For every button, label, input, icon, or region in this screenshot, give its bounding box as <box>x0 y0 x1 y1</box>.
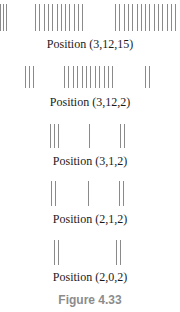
stick-icon <box>69 4 70 31</box>
stick-icon <box>82 66 83 88</box>
stick-icon <box>175 4 176 31</box>
stick-icon <box>115 4 116 31</box>
stick-icon <box>149 66 150 88</box>
stick-icon <box>171 4 172 31</box>
stick-icon <box>55 181 56 206</box>
stick-heaps <box>0 4 180 31</box>
stick-icon <box>145 4 146 31</box>
stick-icon <box>141 4 142 31</box>
stick-icon <box>25 66 26 88</box>
stick-icon <box>44 4 45 31</box>
stick-icon <box>48 4 49 31</box>
stick-icon <box>90 66 91 88</box>
stick-icon <box>137 4 138 31</box>
stick-icon <box>33 66 34 88</box>
stick-icon <box>29 66 30 88</box>
position-label: Position (3,1,2) <box>0 154 180 169</box>
stick-icon <box>54 240 55 265</box>
stick-icon <box>86 66 87 88</box>
position-label: Position (2,0,2) <box>0 270 180 285</box>
stick-icon <box>119 4 120 31</box>
stick-icon <box>132 4 133 31</box>
stick-icon <box>158 4 159 31</box>
stick-icon <box>65 4 66 31</box>
stick-icon <box>108 66 109 88</box>
stick-icon <box>123 181 124 206</box>
stick-icon <box>68 66 69 88</box>
stick-icon <box>0 4 1 31</box>
stick-icon <box>89 124 90 148</box>
stick-heaps <box>0 66 180 88</box>
stick-icon <box>116 240 117 265</box>
stick-icon <box>50 124 51 148</box>
stick-icon <box>73 66 74 88</box>
stick-icon <box>120 124 121 148</box>
stick-heaps <box>0 124 180 148</box>
stick-icon <box>120 240 121 265</box>
stick-icon <box>124 124 125 148</box>
nim-positions-figure: Position (3,12,15)Position (3,12,2)Posit… <box>0 0 180 312</box>
stick-icon <box>39 4 40 31</box>
stick-icon <box>52 4 53 31</box>
stick-icon <box>88 181 89 206</box>
stick-icon <box>64 66 65 88</box>
stick-heaps <box>0 240 180 265</box>
stick-icon <box>51 181 52 206</box>
stick-icon <box>128 4 129 31</box>
stick-icon <box>124 4 125 31</box>
stick-icon <box>95 66 96 88</box>
position-label: Position (3,12,2) <box>0 95 180 110</box>
stick-icon <box>61 4 62 31</box>
stick-icon <box>119 181 120 206</box>
stick-icon <box>112 66 113 88</box>
stick-icon <box>154 4 155 31</box>
stick-icon <box>167 4 168 31</box>
stick-icon <box>57 4 58 31</box>
stick-icon <box>6 4 7 31</box>
stick-icon <box>58 240 59 265</box>
figure-caption: Figure 4.33 <box>0 293 180 307</box>
stick-heaps <box>0 181 180 206</box>
position-label: Position (2,1,2) <box>0 212 180 227</box>
stick-icon <box>78 4 79 31</box>
stick-icon <box>149 4 150 31</box>
stick-icon <box>77 66 78 88</box>
stick-icon <box>104 66 105 88</box>
position-label: Position (3,12,15) <box>0 37 180 52</box>
stick-icon <box>145 66 146 88</box>
stick-icon <box>35 4 36 31</box>
stick-icon <box>58 124 59 148</box>
stick-icon <box>162 4 163 31</box>
stick-icon <box>74 4 75 31</box>
stick-icon <box>99 66 100 88</box>
stick-icon <box>82 4 83 31</box>
stick-icon <box>54 124 55 148</box>
stick-icon <box>3 4 4 31</box>
